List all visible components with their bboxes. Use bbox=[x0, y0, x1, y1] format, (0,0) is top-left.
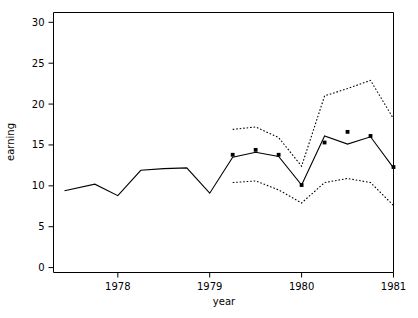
y-tick-label: 10 bbox=[32, 180, 45, 191]
x-tick-label: 1981 bbox=[381, 281, 406, 292]
x-axis-title: year bbox=[213, 296, 236, 307]
y-tick-label: 20 bbox=[32, 99, 45, 110]
data-point bbox=[300, 183, 304, 187]
y-tick-label: 25 bbox=[32, 58, 45, 69]
y-tick-label: 15 bbox=[32, 139, 45, 150]
x-tick-label: 1980 bbox=[289, 281, 314, 292]
earning-vs-year-line-chart: 051015202530 1978197919801981 year earni… bbox=[0, 0, 418, 318]
y-tick-label: 0 bbox=[38, 262, 44, 273]
data-point bbox=[323, 141, 327, 145]
chart-background bbox=[0, 0, 418, 318]
y-axis-title: earning bbox=[5, 123, 16, 161]
chart-container: 051015202530 1978197919801981 year earni… bbox=[0, 0, 418, 318]
x-tick-label: 1979 bbox=[197, 281, 222, 292]
y-tick-label: 5 bbox=[38, 221, 44, 232]
data-point bbox=[392, 165, 396, 169]
data-point bbox=[346, 130, 350, 134]
data-point bbox=[369, 134, 373, 138]
y-tick-label: 30 bbox=[32, 17, 45, 28]
data-point bbox=[277, 153, 281, 157]
data-point bbox=[254, 148, 258, 152]
x-tick-label: 1978 bbox=[105, 281, 130, 292]
data-point bbox=[231, 153, 235, 157]
